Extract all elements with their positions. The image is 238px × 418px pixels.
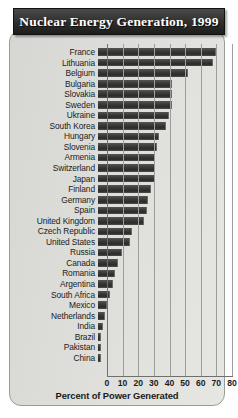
chart-row: South Africa <box>9 290 225 301</box>
category-label: Netherlands <box>9 311 98 322</box>
category-label: Argentina <box>9 279 98 290</box>
chart-row: Mexico <box>9 300 225 311</box>
bar-track <box>98 321 223 332</box>
bar <box>98 196 148 204</box>
category-label: Slovakia <box>9 89 98 100</box>
chart-row: Pakistan <box>9 342 225 353</box>
bar <box>98 323 103 331</box>
bar-track <box>98 152 223 163</box>
category-label: Lithuania <box>9 58 98 69</box>
chart-row: Germany <box>9 195 225 206</box>
bar <box>98 207 147 215</box>
gridline <box>232 44 233 376</box>
category-label: Mexico <box>9 300 98 311</box>
category-label: France <box>9 47 98 58</box>
bar <box>98 101 172 109</box>
bar <box>98 301 107 309</box>
bar <box>98 143 157 151</box>
chart-row: Sweden <box>9 100 225 111</box>
bar-track <box>98 279 223 290</box>
bar <box>98 112 169 120</box>
category-label: Pakistan <box>9 342 98 353</box>
bar-track <box>98 121 223 132</box>
chart-row: Lithuania <box>9 58 225 69</box>
chart-row: Slovakia <box>9 89 225 100</box>
bar-track <box>98 258 223 269</box>
chart-row: Bulgaria <box>9 79 225 90</box>
chart-row: Russia <box>9 247 225 258</box>
bar-track <box>98 268 223 279</box>
chart-row: Finland <box>9 184 225 195</box>
chart-row: Romania <box>9 268 225 279</box>
category-label: India <box>9 321 98 332</box>
category-label: Russia <box>9 247 98 258</box>
category-label: Japan <box>9 174 98 185</box>
bar <box>98 133 159 141</box>
x-tick-label: 50 <box>180 378 190 388</box>
bar-track <box>98 290 223 301</box>
x-tick-label: 0 <box>105 378 110 388</box>
chart-row: Hungary <box>9 131 225 142</box>
bar <box>98 228 132 236</box>
bar-rows: FranceLithuaniaBelgiumBulgariaSlovakiaSw… <box>9 47 225 363</box>
category-label: Germany <box>9 195 98 206</box>
bar-track <box>98 142 223 153</box>
bar <box>98 154 155 162</box>
chart-row: Netherlands <box>9 311 225 322</box>
x-axis-ticks: 01020304050607080 <box>107 378 232 390</box>
chart-row: Ukraine <box>9 110 225 121</box>
chart-row: Japan <box>9 174 225 185</box>
x-tick-label: 20 <box>133 378 143 388</box>
category-label: Ukraine <box>9 110 98 121</box>
bar-track <box>98 100 223 111</box>
category-label: South Korea <box>9 121 98 132</box>
bar <box>98 90 172 98</box>
chart-row: United States <box>9 237 225 248</box>
bar <box>98 217 144 225</box>
bar-track <box>98 332 223 343</box>
chart-row: Canada <box>9 258 225 269</box>
chart-title-banner: Nuclear Energy Generation, 1999 <box>13 8 225 35</box>
category-label: Spain <box>9 205 98 216</box>
category-label: Hungary <box>9 131 98 142</box>
chart-row: Switzerland <box>9 163 225 174</box>
chart-row: United Kingdom <box>9 216 225 227</box>
bar <box>98 164 155 172</box>
bar <box>98 249 122 257</box>
x-tick-label: 80 <box>227 378 237 388</box>
category-label: Switzerland <box>9 163 98 174</box>
bar-track <box>98 47 223 58</box>
category-label: Belgium <box>9 68 98 79</box>
chart-row: Brazil <box>9 332 225 343</box>
chart-row: Argentina <box>9 279 225 290</box>
bar <box>98 354 101 362</box>
chart-row: China <box>9 353 225 364</box>
bar-track <box>98 58 223 69</box>
chart-row: Czech Republic <box>9 226 225 237</box>
chart-row: South Korea <box>9 121 225 132</box>
category-label: Sweden <box>9 100 98 111</box>
chart-row: India <box>9 321 225 332</box>
bar-track <box>98 174 223 185</box>
category-label: United States <box>9 237 98 248</box>
x-tick-label: 70 <box>212 378 222 388</box>
bar-track <box>98 300 223 311</box>
x-tick-label: 30 <box>149 378 159 388</box>
bar <box>98 312 105 320</box>
chart-row: Slovenia <box>9 142 225 153</box>
bar-track <box>98 353 223 364</box>
bar <box>98 59 213 67</box>
bar-track <box>98 216 223 227</box>
bar <box>98 69 188 77</box>
bar <box>98 48 216 56</box>
bar <box>98 270 115 278</box>
bar <box>98 333 101 341</box>
bar <box>98 185 151 193</box>
bar-track <box>98 342 223 353</box>
bar-track <box>98 311 223 322</box>
chart-row: Belgium <box>9 68 225 79</box>
bar <box>98 238 130 246</box>
bar <box>98 344 101 352</box>
chart-row: France <box>9 47 225 58</box>
chart-row: Spain <box>9 205 225 216</box>
